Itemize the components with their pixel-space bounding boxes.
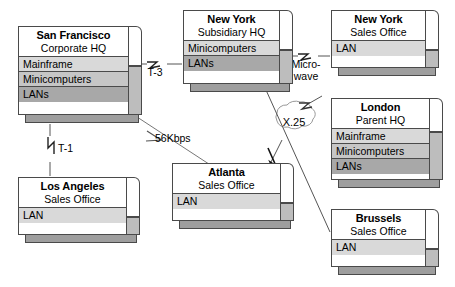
node-new-york-sales[interactable]: New York Sales Office LAN [331,10,439,76]
node-los-angeles-header: Los Angeles Sales Office [19,178,126,208]
node-brussels-city: Brussels [332,212,425,225]
node-london-side [429,132,443,180]
node-san-francisco-city: San Francisco [19,29,128,42]
node-san-francisco-row-minicomputers: Minicomputers [19,72,128,87]
node-san-francisco-role: Corporate HQ [19,42,128,54]
node-london-side-top [429,98,443,132]
node-brussels-front: Brussels Sales Office LAN [331,209,426,267]
node-new-york-sales-role: Sales Office [332,26,425,38]
link-label-x25: X.25 [277,116,311,128]
node-new-york-sales-front: New York Sales Office LAN [331,10,426,68]
node-london-city: London [332,101,429,114]
node-atlanta-side-top [280,163,294,203]
node-atlanta-base [179,220,291,229]
node-new-york-subsidiary-front: New York Subsidiary HQ Minicomputers LAN… [183,10,280,84]
node-los-angeles-city: Los Angeles [19,180,126,193]
node-brussels-side-top [425,209,439,249]
node-london[interactable]: London Parent HQ Mainframe Minicomputers… [331,98,443,188]
node-san-francisco-row-lans: LANs [19,87,128,102]
node-san-francisco-side [128,66,142,115]
node-new-york-subsidiary-row-minicomputers: Minicomputers [184,41,279,56]
node-los-angeles-base [25,234,137,243]
node-new-york-sales-side [425,50,439,68]
link-label-t3: T-3 [140,66,170,78]
link-label-t1: T-1 [58,142,73,154]
node-new-york-sales-side-top [425,10,439,50]
node-san-francisco-side-top [128,26,142,66]
node-atlanta-front: Atlanta Sales Office LAN [172,163,281,221]
node-brussels-base [338,266,436,275]
node-brussels-row-lan: LAN [332,240,425,255]
node-san-francisco[interactable]: San Francisco Corporate HQ Mainframe Min… [18,26,142,122]
node-new-york-sales-base [338,67,436,76]
node-los-angeles-side-top [126,177,140,217]
node-san-francisco-front: San Francisco Corporate HQ Mainframe Min… [18,26,129,115]
node-london-row-lans: LANs [332,159,429,174]
node-london-header: London Parent HQ [332,99,429,129]
node-london-role: Parent HQ [332,114,429,126]
node-brussels-side [425,249,439,267]
node-los-angeles[interactable]: Los Angeles Sales Office LAN [18,177,140,243]
node-new-york-subsidiary[interactable]: New York Subsidiary HQ Minicomputers LAN… [183,10,293,92]
node-new-york-subsidiary-side [279,50,293,84]
node-new-york-subsidiary-base [190,83,290,92]
link-label-microwave-line2: wave [294,70,319,82]
node-london-front: London Parent HQ Mainframe Minicomputers… [331,98,430,180]
node-new-york-sales-city: New York [332,13,425,26]
node-atlanta-header: Atlanta Sales Office [173,164,280,194]
node-new-york-subsidiary-header: New York Subsidiary HQ [184,11,279,41]
node-los-angeles-front: Los Angeles Sales Office LAN [18,177,127,235]
node-new-york-subsidiary-city: New York [184,13,279,26]
node-atlanta-row-lan: LAN [173,194,280,209]
node-los-angeles-role: Sales Office [19,193,126,205]
node-san-francisco-header: San Francisco Corporate HQ [19,27,128,57]
node-los-angeles-side [126,217,140,235]
node-san-francisco-row-mainframe: Mainframe [19,57,128,72]
node-atlanta-city: Atlanta [173,166,280,179]
node-brussels-role: Sales Office [332,225,425,237]
node-london-base [338,179,440,188]
node-new-york-sales-header: New York Sales Office [332,11,425,41]
link-label-microwave-line1: Micro- [291,58,320,70]
node-atlanta-side [280,203,294,221]
link-label-56kbps: 56Kbps [155,132,191,144]
node-new-york-sales-row-lan: LAN [332,41,425,56]
node-atlanta[interactable]: Atlanta Sales Office LAN [172,163,294,229]
node-new-york-subsidiary-side-top [279,10,293,50]
node-san-francisco-base [25,114,139,123]
node-brussels-header: Brussels Sales Office [332,210,425,240]
node-atlanta-role: Sales Office [173,179,280,191]
node-new-york-subsidiary-row-lans: LANs [184,56,279,71]
node-los-angeles-row-lan: LAN [19,208,126,223]
network-diagram-canvas: T-3 Micro- wave 56Kbps T-1 X.25 San Fran… [0,0,455,287]
node-new-york-subsidiary-role: Subsidiary HQ [184,26,279,38]
node-london-row-mainframe: Mainframe [332,129,429,144]
link-sf-la [48,124,54,176]
node-brussels[interactable]: Brussels Sales Office LAN [331,209,439,275]
node-london-row-minicomputers: Minicomputers [332,144,429,159]
